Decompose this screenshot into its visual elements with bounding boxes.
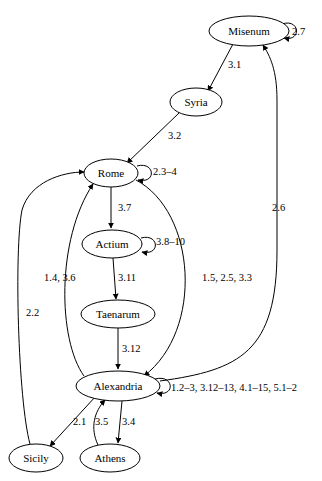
node-taenarum[interactable]: Taenarum xyxy=(81,300,155,328)
edge-label-rome-alexandria: 1.5, 2.5, 3.3 xyxy=(202,272,252,283)
node-sicily-label: Sicily xyxy=(23,452,49,464)
diagram-canvas: Misenum Syria Rome Actium Taenarum Alexa xyxy=(0,0,322,481)
edge-actium-self xyxy=(141,237,155,252)
node-misenum[interactable]: Misenum xyxy=(209,16,289,46)
node-actium-label: Actium xyxy=(96,238,129,250)
edge-label-athens-alexandria: 3.5 xyxy=(95,416,108,427)
node-syria-label: Syria xyxy=(184,96,207,108)
nodes-layer: Misenum Syria Rome Actium Taenarum Alexa xyxy=(9,16,289,472)
graph-svg: Misenum Syria Rome Actium Taenarum Alexa xyxy=(0,0,322,481)
edge-label-sicily-rome: 2.2 xyxy=(26,307,39,318)
edge-labels-layer: 2.7 3.1 3.2 2.3–4 3.7 3.8–10 3.11 1.4, 3… xyxy=(26,26,305,427)
edge-label-rome-self: 2.3–4 xyxy=(153,166,177,177)
edge-label-syria-rome: 3.2 xyxy=(168,130,181,141)
edge-label-alexandria-self: 1.2–3, 3.12–13, 4.1–15, 5.1–2 xyxy=(171,382,297,393)
node-sicily[interactable]: Sicily xyxy=(9,444,63,472)
node-alexandria-label: Alexandria xyxy=(94,380,143,392)
node-syria[interactable]: Syria xyxy=(170,88,222,116)
edge-label-rome-actium: 3.7 xyxy=(118,202,131,213)
node-actium[interactable]: Actium xyxy=(82,230,142,258)
node-alexandria[interactable]: Alexandria xyxy=(76,371,160,401)
node-taenarum-label: Taenarum xyxy=(96,308,140,320)
edge-label-misenum-self: 2.7 xyxy=(292,26,305,37)
node-rome[interactable]: Rome xyxy=(84,159,138,187)
node-rome-label: Rome xyxy=(98,167,124,179)
edge-rome-self xyxy=(137,165,151,180)
edge-actium-taenarum xyxy=(113,258,116,299)
edge-label-alexandria-sicily: 2.1 xyxy=(73,416,86,427)
edge-label-alexandria-misenum: 2.6 xyxy=(272,202,285,213)
edge-label-actium-taenarum: 3.11 xyxy=(118,272,136,283)
node-athens[interactable]: Athens xyxy=(80,444,140,472)
edge-label-actium-self: 3.8–10 xyxy=(156,236,185,247)
edge-rome-alexandria xyxy=(136,180,185,376)
node-misenum-label: Misenum xyxy=(228,25,270,37)
node-athens-label: Athens xyxy=(94,452,125,464)
edge-label-alexandria-athens: 3.4 xyxy=(122,416,136,427)
edge-label-misenum-syria: 3.1 xyxy=(228,59,241,70)
edge-label-taenarum-alexandria: 3.12 xyxy=(122,343,140,354)
edge-label-alexandria-rome: 1.4, 3.6 xyxy=(44,272,76,283)
